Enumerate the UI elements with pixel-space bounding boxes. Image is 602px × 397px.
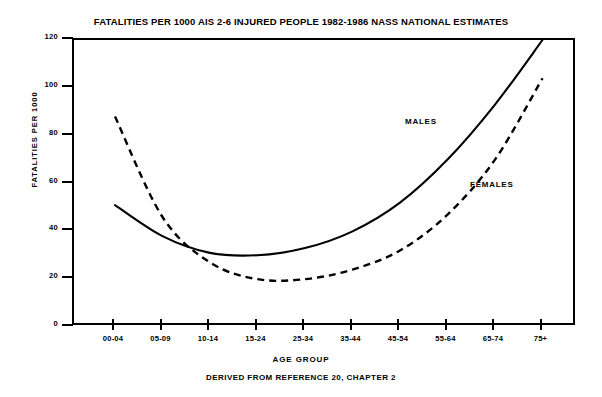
y-tick-label: 80 — [20, 128, 58, 137]
y-tick-label: 100 — [20, 80, 58, 89]
chart-title: FATALITIES PER 1000 AIS 2-6 INJURED PEOP… — [0, 16, 602, 27]
y-tick-label: 60 — [20, 176, 58, 185]
x-axis-label: AGE GROUP — [0, 355, 602, 364]
x-tick-label: 75+ — [511, 334, 571, 343]
series-annotation-females: FEMALES — [470, 180, 513, 189]
series-annotation-males: MALES — [405, 117, 437, 126]
series-line-males — [115, 40, 543, 256]
chart-footnote: DERIVED FROM REFERENCE 20, CHAPTER 2 — [0, 373, 602, 382]
chart-figure: FATALITIES PER 1000 AIS 2-6 INJURED PEOP… — [0, 0, 602, 397]
y-tick-label: 120 — [20, 32, 58, 41]
y-tick-label: 0 — [20, 319, 58, 328]
y-tick-label: 20 — [20, 271, 58, 280]
y-tick-label: 40 — [20, 223, 58, 232]
